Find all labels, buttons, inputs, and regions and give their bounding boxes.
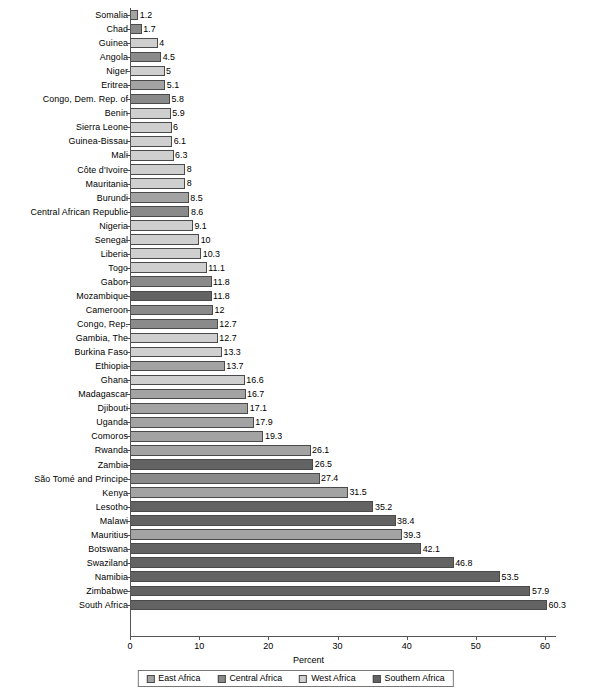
bar[interactable]: 5.1	[130, 80, 165, 91]
bar[interactable]: 11.8	[130, 291, 212, 302]
bar[interactable]: 27.4	[130, 473, 320, 484]
category-label: Côte d'Ivoire	[0, 165, 128, 175]
x-tick-mark	[268, 636, 269, 640]
category-label: Central African Republic	[0, 207, 128, 217]
bar-value-label: 12.7	[219, 319, 236, 329]
bar[interactable]: 5.9	[130, 108, 171, 119]
bar[interactable]: 6.3	[130, 150, 174, 161]
bar[interactable]: 8	[130, 178, 185, 189]
x-axis-title: Percent	[0, 655, 591, 665]
bar-row: Nigeria9.1	[0, 219, 591, 233]
x-tick-label: 0	[127, 641, 132, 651]
bar[interactable]: 10.3	[130, 248, 201, 259]
bar[interactable]: 17.9	[130, 417, 254, 428]
bar[interactable]: 11.1	[130, 262, 207, 273]
bar-wrapper: 31.5	[130, 487, 348, 498]
bar-row: Namibia53.5	[0, 570, 591, 584]
bar[interactable]: 19.3	[130, 431, 263, 442]
bar[interactable]: 11.8	[130, 276, 212, 287]
bar-row: Sierra Leone6	[0, 120, 591, 134]
bar[interactable]: 6	[130, 122, 172, 133]
bar-value-label: 60.3	[549, 600, 566, 610]
bar-wrapper: 5.1	[130, 80, 165, 91]
bar-row: Lesotho35.2	[0, 500, 591, 514]
bar[interactable]: 26.1	[130, 445, 311, 456]
category-label: Benin	[0, 108, 128, 118]
bar[interactable]: 12.7	[130, 333, 218, 344]
bar-row: Djibouti17.1	[0, 401, 591, 415]
category-label: Nigeria	[0, 221, 128, 231]
bar[interactable]: 4.5	[130, 52, 161, 63]
bar[interactable]: 13.7	[130, 361, 225, 372]
bar[interactable]: 17.1	[130, 403, 248, 414]
bar-wrapper: 12.7	[130, 333, 218, 344]
bar-value-label: 17.9	[255, 417, 272, 427]
bar[interactable]: 31.5	[130, 487, 348, 498]
bar-value-label: 6.1	[174, 136, 186, 146]
category-label: Congo, Dem. Rep. of	[0, 94, 128, 104]
bar[interactable]: 4	[130, 38, 158, 49]
bar-wrapper: 1.2	[130, 10, 138, 21]
bar[interactable]: 9.1	[130, 220, 193, 231]
bar-wrapper: 1.7	[130, 24, 142, 35]
bar[interactable]: 1.2	[130, 10, 138, 21]
legend-swatch-icon	[217, 675, 225, 683]
category-label: Congo, Rep.	[0, 319, 128, 329]
bar[interactable]: 1.7	[130, 24, 142, 35]
category-label: Mauritania	[0, 179, 128, 189]
bar-row: Ethiopia13.7	[0, 359, 591, 373]
bar-row: Mali6.3	[0, 148, 591, 162]
category-label: Guinea-Bissau	[0, 136, 128, 146]
bar[interactable]: 13.3	[130, 347, 222, 358]
category-label: Uganda	[0, 417, 128, 427]
bar[interactable]: 10	[130, 234, 199, 245]
bar[interactable]: 8.6	[130, 206, 189, 217]
bar-rows: Somalia1.2Chad1.7Guinea4Angola4.5Niger5E…	[0, 8, 591, 612]
bar[interactable]: 8.5	[130, 192, 189, 203]
bar-wrapper: 46.8	[130, 557, 454, 568]
bar-row: Swaziland46.8	[0, 556, 591, 570]
bar-wrapper: 9.1	[130, 220, 193, 231]
bar-wrapper: 5	[130, 66, 165, 77]
legend-item[interactable]: East Africa	[146, 674, 200, 683]
bar[interactable]: 8	[130, 164, 185, 175]
legend-item[interactable]: Central Africa	[217, 674, 282, 683]
bar[interactable]: 12.7	[130, 319, 218, 330]
bar[interactable]: 16.6	[130, 375, 245, 386]
bar[interactable]: 57.9	[130, 586, 530, 597]
bar[interactable]: 16.7	[130, 389, 246, 400]
bar[interactable]: 5	[130, 66, 165, 77]
bar[interactable]: 26.5	[130, 459, 313, 470]
bar-value-label: 9.1	[194, 221, 206, 231]
bar-row: Congo, Dem. Rep. of5.8	[0, 92, 591, 106]
plot-area: Somalia1.2Chad1.7Guinea4Angola4.5Niger5E…	[0, 0, 591, 640]
bar-wrapper: 8.6	[130, 206, 189, 217]
bar[interactable]: 42.1	[130, 543, 421, 554]
bar[interactable]: 53.5	[130, 571, 500, 582]
bar-row: Somalia1.2	[0, 8, 591, 22]
bar-wrapper: 8	[130, 178, 185, 189]
legend-item[interactable]: Southern Africa	[373, 674, 445, 683]
category-label: Madagascar	[0, 389, 128, 399]
bar-wrapper: 12	[130, 305, 213, 316]
bar[interactable]: 38.4	[130, 515, 396, 526]
bar-wrapper: 26.5	[130, 459, 313, 470]
category-label: Mauritius	[0, 530, 128, 540]
bar-value-label: 31.5	[349, 487, 366, 497]
bar-wrapper: 16.7	[130, 389, 246, 400]
category-label: Angola	[0, 52, 128, 62]
bar[interactable]: 60.3	[130, 600, 547, 611]
legend-item[interactable]: West Africa	[299, 674, 355, 683]
bar[interactable]: 12	[130, 305, 213, 316]
bar-value-label: 53.5	[502, 572, 519, 582]
bar[interactable]: 5.8	[130, 94, 170, 105]
bar[interactable]: 39.3	[130, 529, 402, 540]
bar-row: Niger5	[0, 64, 591, 78]
bar-wrapper: 39.3	[130, 529, 402, 540]
bar[interactable]: 6.1	[130, 136, 172, 147]
bar-value-label: 4	[159, 38, 164, 48]
bar[interactable]: 46.8	[130, 557, 454, 568]
bar[interactable]: 35.2	[130, 501, 373, 512]
bar-wrapper: 4	[130, 38, 158, 49]
bar-wrapper: 19.3	[130, 431, 263, 442]
